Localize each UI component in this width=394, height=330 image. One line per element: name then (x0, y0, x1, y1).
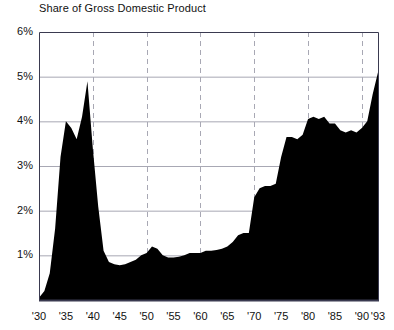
y-axis-tick-label: 1% (3, 249, 33, 260)
x-axis-tick-label: '80 (294, 311, 322, 322)
area-chart-plot (0, 0, 394, 330)
area-series-gdp-share (39, 72, 378, 300)
x-axis-tick-label: '50 (133, 311, 161, 322)
x-axis-tick-label: '93 (364, 311, 392, 322)
x-axis-tick-label: '45 (106, 311, 134, 322)
x-axis-tick-label: '35 (52, 311, 80, 322)
x-axis-tick-label: '65 (213, 311, 241, 322)
y-axis-tick-label: 4% (3, 115, 33, 126)
x-axis-tick-label: '70 (240, 311, 268, 322)
y-axis-tick-label: 2% (3, 205, 33, 216)
x-axis-tick-label: '75 (267, 311, 295, 322)
y-axis-tick-label: 6% (3, 26, 33, 37)
x-axis-tick-label: '30 (25, 311, 53, 322)
y-axis-tick-label: 5% (3, 71, 33, 82)
x-axis-tick-label: '40 (79, 311, 107, 322)
y-axis-tick-label: 3% (3, 160, 33, 171)
x-axis-tick-label: '60 (186, 311, 214, 322)
x-axis-tick-label: '85 (321, 311, 349, 322)
chart-container: Share of Gross Domestic Product 6%5%4%3%… (0, 0, 394, 330)
x-axis-tick-label: '55 (160, 311, 188, 322)
